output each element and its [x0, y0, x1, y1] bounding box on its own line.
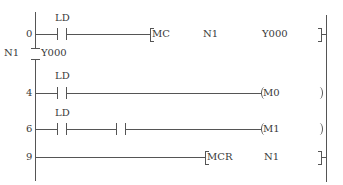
rung-wire: [67, 129, 116, 130]
rung-wire: [67, 34, 150, 35]
rung-wire: [322, 34, 326, 35]
left-power-rail-bottom: [35, 59, 36, 181]
instruction-bracket-close-icon: [318, 28, 322, 42]
step-number: 9: [26, 152, 32, 162]
normally-open-contact-icon[interactable]: [116, 123, 126, 135]
instruction-operand[interactable]: N1: [264, 152, 279, 162]
instruction-mnemonic[interactable]: MCR: [207, 152, 232, 162]
normally-open-contact-icon[interactable]: [57, 28, 67, 40]
instruction-operand[interactable]: Y000: [262, 29, 288, 39]
mc-nest-label: N1: [4, 48, 19, 58]
normally-open-contact-icon[interactable]: [57, 87, 67, 99]
step-number: 6: [26, 124, 32, 134]
contact-label: LD: [55, 13, 70, 23]
step-number: 4: [26, 88, 32, 98]
mc-nest-cap-top: [31, 48, 40, 49]
coil-device[interactable]: M0: [263, 88, 280, 98]
contact-label: LD: [55, 108, 70, 118]
step-number: 0: [26, 29, 32, 39]
rung-wire: [35, 157, 205, 158]
instruction-bracket-close-icon: [318, 151, 322, 165]
rung-wire: [35, 93, 57, 94]
coil-close-icon: [316, 123, 323, 135]
coil-close-icon: [316, 87, 323, 99]
right-power-rail: [326, 15, 327, 182]
rung-wire: [35, 34, 57, 35]
rung-wire: [67, 93, 261, 94]
left-power-rail-top: [35, 12, 36, 48]
instruction-mnemonic[interactable]: MC: [152, 29, 170, 39]
rung-wire: [35, 129, 57, 130]
instruction-operand[interactable]: N1: [203, 29, 218, 39]
normally-open-contact-icon[interactable]: [57, 123, 67, 135]
contact-label: LD: [55, 71, 70, 81]
rung-wire: [126, 129, 261, 130]
coil-device[interactable]: M1: [263, 124, 280, 134]
mc-nest-device: Y000: [41, 48, 67, 58]
rung-wire: [322, 157, 326, 158]
